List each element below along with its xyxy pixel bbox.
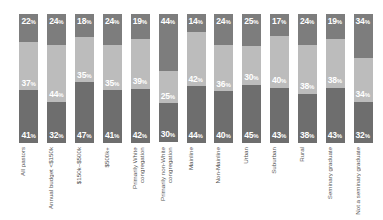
bar-segment-middle: 30% (242, 46, 261, 85)
bar-column: 14%42%44% (187, 14, 206, 143)
bar-segment-bottom: 43% (270, 88, 289, 143)
segment-value-label: 35% (105, 79, 119, 88)
category-label: Suburban (271, 147, 290, 174)
bar-segment-top: 24% (298, 14, 317, 45)
category-axis: All pastorsAnnual budget <$150k$150k–$50… (0, 145, 383, 220)
bar-column: 17%40%43% (270, 14, 289, 143)
segment-value-label: 17% (272, 17, 286, 26)
category-label: Urban (243, 147, 262, 164)
bar-segment-middle: 35% (75, 37, 94, 82)
category-label: $150k–$500k (76, 147, 95, 184)
bar-segment-top: 22% (19, 14, 38, 42)
category-label: All pastors (20, 147, 39, 176)
category-label: Annual budget <$150k (48, 147, 67, 209)
plot-area: 22%37%41%24%44%32%18%35%47%24%35%41%19%3… (0, 0, 383, 145)
bar-column: 22%37%41% (19, 14, 38, 143)
segment-value-label: 30% (161, 130, 175, 139)
bar-segment-middle: 38% (326, 39, 345, 88)
bar-segment-top: 17% (270, 14, 289, 36)
bar-segment-bottom: 32% (47, 102, 66, 143)
segment-value-label: 43% (328, 131, 342, 140)
bar-segment-bottom: 41% (19, 90, 38, 143)
bar-segment-top: 24% (47, 14, 66, 45)
category-label: Not a seminary graduate (355, 147, 374, 215)
bar-segment-bottom: 38% (298, 94, 317, 143)
bar-segment-bottom: 32% (354, 102, 373, 143)
bar-segment-top: 14% (187, 14, 206, 32)
bar-segment-bottom: 41% (103, 90, 122, 143)
segment-value-label: 38% (300, 82, 314, 91)
bar-segment-top: 19% (326, 14, 345, 39)
bar-segment-middle: 40% (270, 36, 289, 88)
segment-value-label: 42% (133, 131, 147, 140)
segment-value-label: 40% (272, 76, 286, 85)
category-label: Seminary graduate (327, 147, 346, 199)
segment-value-label: 41% (21, 131, 35, 140)
bar-column: 24%44%32% (47, 14, 66, 143)
segment-value-label: 44% (49, 90, 63, 99)
segment-value-label: 47% (77, 131, 91, 140)
category-label: Rural (299, 147, 318, 162)
segment-value-label: 25% (244, 17, 258, 26)
category-label: Mainline (188, 147, 207, 170)
bar-segment-top: 19% (131, 14, 150, 39)
bar-segment-bottom: 43% (326, 88, 345, 143)
bar-column: 19%38%43% (326, 14, 345, 143)
bar-segment-middle: 39% (131, 39, 150, 89)
segment-value-label: 30% (244, 73, 258, 82)
category-label: Primarily non-White congregation (160, 147, 179, 219)
segment-value-label: 25% (161, 92, 175, 101)
segment-value-label: 22% (21, 17, 35, 26)
bar-segment-top: 25% (242, 14, 261, 46)
bar-column: 24%35%41% (103, 14, 122, 143)
bar-segment-top: 24% (214, 14, 233, 45)
bar-segment-bottom: 47% (75, 82, 94, 143)
bar-column: 44%25%30% (159, 14, 178, 143)
bar-column: 34%34%32% (354, 14, 373, 143)
segment-value-label: 37% (21, 79, 35, 88)
segment-value-label: 19% (328, 17, 342, 26)
segment-value-label: 44% (189, 131, 203, 140)
segment-value-label: 38% (328, 76, 342, 85)
bar-segment-bottom: 40% (214, 91, 233, 143)
bar-segment-middle: 35% (103, 45, 122, 90)
segment-value-label: 36% (216, 80, 230, 89)
bar-segment-middle: 36% (214, 45, 233, 91)
category-label: Non-Mainline (215, 147, 234, 183)
segment-value-label: 32% (356, 131, 370, 140)
segment-value-label: 41% (105, 131, 119, 140)
segment-value-label: 35% (77, 71, 91, 80)
segment-value-label: 34% (356, 17, 370, 26)
bar-column: 24%38%38% (298, 14, 317, 143)
bar-segment-middle: 44% (47, 45, 66, 102)
bar-segment-middle: 25% (159, 71, 178, 103)
bar-segment-top: 34% (354, 14, 373, 58)
segment-value-label: 45% (244, 131, 258, 140)
bar-segment-middle: 34% (354, 58, 373, 102)
segment-value-label: 24% (105, 17, 119, 26)
category-label: $500k+ (104, 147, 123, 167)
segment-value-label: 39% (133, 77, 147, 86)
bar-segment-top: 44% (159, 14, 178, 71)
bar-segment-bottom: 45% (242, 85, 261, 143)
segment-value-label: 43% (272, 131, 286, 140)
segment-value-label: 32% (49, 131, 63, 140)
segment-value-label: 14% (189, 17, 203, 26)
bar-segment-top: 24% (103, 14, 122, 45)
bar-segment-top: 18% (75, 14, 94, 37)
bar-segment-bottom: 44% (187, 86, 206, 143)
bar-column: 24%36%40% (214, 14, 233, 143)
bar-segment-bottom: 42% (131, 89, 150, 143)
bar-segment-middle: 37% (19, 42, 38, 90)
segment-value-label: 18% (77, 17, 91, 26)
bar-column: 25%30%45% (242, 14, 261, 143)
bar-segment-middle: 42% (187, 32, 206, 86)
segment-value-label: 24% (300, 17, 314, 26)
segment-value-label: 19% (133, 17, 147, 26)
bar-column: 18%35%47% (75, 14, 94, 143)
segment-value-label: 42% (189, 75, 203, 84)
bar-segment-bottom: 30% (159, 103, 178, 142)
bar-column: 19%39%42% (131, 14, 150, 143)
segment-value-label: 44% (161, 17, 175, 26)
segment-value-label: 24% (49, 17, 63, 26)
